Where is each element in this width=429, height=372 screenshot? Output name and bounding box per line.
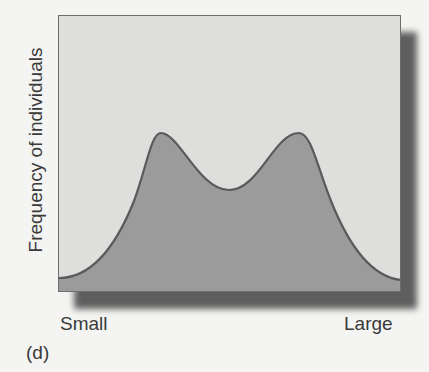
x-axis-label-large: Large — [344, 313, 393, 335]
plot-area — [58, 15, 401, 292]
y-axis-label: Frequency of individuals — [25, 48, 47, 253]
bimodal-distribution-curve — [59, 16, 401, 292]
panel-label: (d) — [26, 342, 49, 364]
distribution-area — [59, 133, 401, 292]
x-axis-label-small: Small — [60, 313, 108, 335]
